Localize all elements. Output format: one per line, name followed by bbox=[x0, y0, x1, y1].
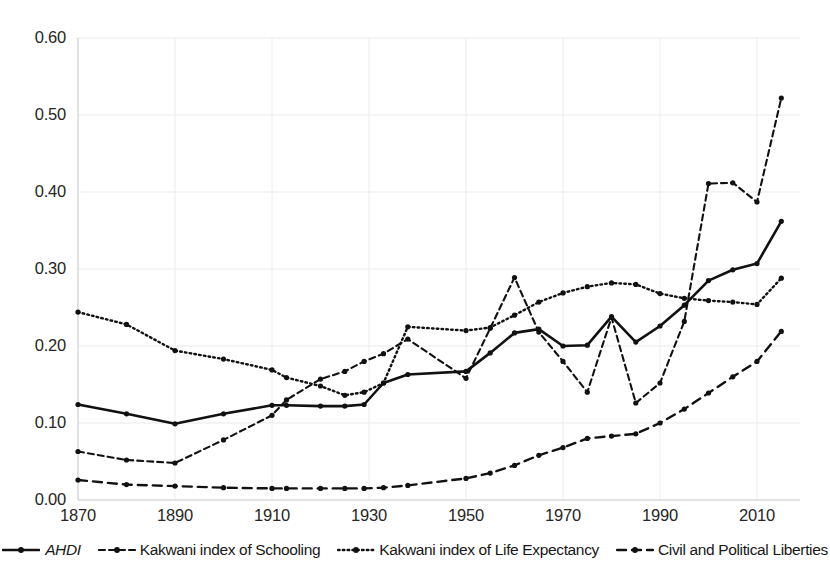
data-point-marker bbox=[405, 372, 410, 377]
data-point-marker bbox=[488, 325, 493, 330]
y-axis-tick-label: 0.20 bbox=[8, 336, 66, 355]
legend-line-swatch-longdash bbox=[616, 544, 654, 556]
data-point-marker bbox=[657, 291, 662, 296]
gridlines bbox=[78, 38, 800, 500]
data-point-marker bbox=[682, 407, 687, 412]
data-point-marker bbox=[633, 282, 638, 287]
legend-item[interactable]: Kakwani index of Schooling bbox=[98, 541, 320, 559]
data-point-marker bbox=[221, 485, 226, 490]
chart-legend: AHDIKakwani index of SchoolingKakwani in… bbox=[0, 535, 830, 565]
data-point-marker bbox=[706, 181, 711, 186]
data-point-marker bbox=[269, 413, 274, 418]
data-point-marker bbox=[609, 315, 614, 320]
data-series-layer bbox=[75, 96, 784, 492]
data-point-marker bbox=[779, 329, 784, 334]
series-dashed bbox=[75, 96, 784, 466]
data-point-marker bbox=[269, 367, 274, 372]
legend-label: AHDI bbox=[44, 541, 81, 559]
data-point-marker bbox=[609, 280, 614, 285]
data-point-marker bbox=[463, 376, 468, 381]
legend-item[interactable]: AHDI bbox=[2, 541, 81, 559]
y-axis-tick-label: 0.10 bbox=[8, 413, 66, 432]
data-point-marker bbox=[342, 369, 347, 374]
data-point-marker bbox=[706, 278, 711, 283]
data-point-marker bbox=[124, 411, 129, 416]
data-point-marker bbox=[342, 393, 347, 398]
data-point-marker bbox=[342, 486, 347, 491]
data-point-marker bbox=[172, 348, 177, 353]
data-point-marker bbox=[75, 449, 80, 454]
data-point-marker bbox=[754, 199, 759, 204]
data-point-marker bbox=[381, 351, 386, 356]
x-axis-tick-label: 1890 bbox=[140, 506, 210, 525]
data-point-marker bbox=[512, 463, 517, 468]
legend-item[interactable]: Kakwani index of Life Expectancy bbox=[337, 541, 599, 559]
data-point-marker bbox=[318, 377, 323, 382]
data-point-marker bbox=[779, 276, 784, 281]
series-line bbox=[78, 98, 781, 463]
series-line bbox=[78, 221, 781, 423]
data-point-marker bbox=[512, 275, 517, 280]
data-point-marker bbox=[779, 219, 784, 224]
x-axis-tick-label: 1870 bbox=[43, 506, 113, 525]
y-axis-tick-label: 0.60 bbox=[8, 28, 66, 47]
series-solid bbox=[75, 219, 784, 427]
data-point-marker bbox=[560, 290, 565, 295]
data-point-marker bbox=[730, 374, 735, 379]
data-point-marker bbox=[405, 483, 410, 488]
data-point-marker bbox=[75, 310, 80, 315]
data-point-marker bbox=[362, 486, 367, 491]
data-point-marker bbox=[633, 431, 638, 436]
data-point-marker bbox=[657, 323, 662, 328]
data-point-marker bbox=[405, 337, 410, 342]
data-point-marker bbox=[560, 359, 565, 364]
data-point-marker bbox=[754, 359, 759, 364]
x-axis-tick-label: 1930 bbox=[334, 506, 404, 525]
x-axis-tick-label: 1970 bbox=[528, 506, 598, 525]
data-point-marker bbox=[172, 421, 177, 426]
data-point-marker bbox=[342, 404, 347, 409]
data-point-marker bbox=[512, 330, 517, 335]
data-point-marker bbox=[381, 485, 386, 490]
data-point-marker bbox=[706, 390, 711, 395]
data-point-marker bbox=[124, 322, 129, 327]
data-point-marker bbox=[609, 434, 614, 439]
line-chart-plot bbox=[0, 0, 830, 575]
data-point-marker bbox=[560, 445, 565, 450]
y-axis-tick-label: 0.50 bbox=[8, 105, 66, 124]
legend-line-swatch-solid bbox=[2, 544, 40, 556]
data-point-marker bbox=[585, 343, 590, 348]
data-point-marker bbox=[405, 324, 410, 329]
data-point-marker bbox=[730, 300, 735, 305]
chart-container: 0.000.100.200.300.400.500.60 18701890191… bbox=[0, 0, 830, 575]
data-point-marker bbox=[284, 403, 289, 408]
data-point-marker bbox=[633, 340, 638, 345]
legend-label: Kakwani index of Life Expectancy bbox=[379, 541, 599, 559]
data-point-marker bbox=[754, 302, 759, 307]
data-point-marker bbox=[730, 267, 735, 272]
data-point-marker bbox=[682, 296, 687, 301]
x-axis-tick-label: 1990 bbox=[625, 506, 695, 525]
data-point-marker bbox=[75, 402, 80, 407]
data-point-marker bbox=[633, 400, 638, 405]
data-point-marker bbox=[362, 402, 367, 407]
data-point-marker bbox=[730, 180, 735, 185]
data-point-marker bbox=[318, 404, 323, 409]
legend-label: Kakwani index of Schooling bbox=[140, 541, 320, 559]
data-point-marker bbox=[706, 298, 711, 303]
data-point-marker bbox=[172, 484, 177, 489]
legend-label: Civil and Political Liberties bbox=[658, 541, 828, 559]
data-point-marker bbox=[318, 383, 323, 388]
data-point-marker bbox=[172, 460, 177, 465]
y-axis-tick-label: 0.30 bbox=[8, 259, 66, 278]
data-point-marker bbox=[512, 313, 517, 318]
data-point-marker bbox=[284, 397, 289, 402]
data-point-marker bbox=[682, 319, 687, 324]
data-point-marker bbox=[536, 330, 541, 335]
data-point-marker bbox=[221, 411, 226, 416]
data-point-marker bbox=[284, 375, 289, 380]
legend-item[interactable]: Civil and Political Liberties bbox=[616, 541, 828, 559]
data-point-marker bbox=[585, 436, 590, 441]
data-point-marker bbox=[269, 403, 274, 408]
series-line bbox=[78, 278, 781, 395]
